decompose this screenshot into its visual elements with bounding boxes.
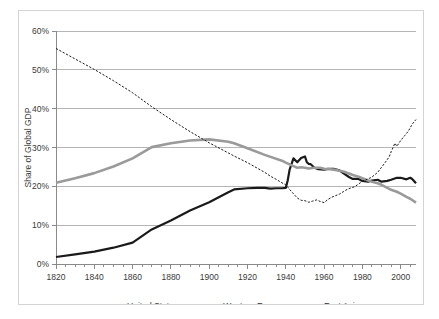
data-series bbox=[56, 48, 416, 257]
x-axis-tick-label: 1880 bbox=[161, 272, 180, 282]
x-axis-tick-label: 1900 bbox=[200, 272, 219, 282]
legend-label-east-asia: East Asia bbox=[324, 301, 360, 304]
legend-label-western-europe: Western Europe bbox=[223, 301, 285, 304]
y-axis bbox=[52, 31, 56, 264]
y-axis-tick-labels: 0%10%20%30%40%50%60% bbox=[32, 26, 49, 269]
x-axis bbox=[56, 264, 416, 269]
y-axis-tick-label: 40% bbox=[32, 104, 49, 114]
chart-plot-svg: 0%10%20%30%40%50%60% 1820184018601880190… bbox=[19, 11, 423, 304]
x-axis-tick-label: 1940 bbox=[276, 272, 295, 282]
legend-label-united-states: United States bbox=[127, 301, 178, 304]
chart-container: 0%10%20%30%40%50%60% 1820184018601880190… bbox=[18, 10, 424, 305]
x-axis-tick-label: 1840 bbox=[85, 272, 104, 282]
x-axis-tick-labels: 1820184018601880190019201940196019802000 bbox=[47, 272, 411, 282]
chart-legend: United StatesWestern EuropeEast Asia bbox=[105, 301, 360, 304]
x-axis-tick-label: 1960 bbox=[315, 272, 334, 282]
y-axis-tick-label: 20% bbox=[32, 181, 49, 191]
y-axis-tick-label: 30% bbox=[32, 143, 49, 153]
y-axis-title: Share of Global GDP bbox=[23, 107, 33, 187]
y-axis-tick-label: 10% bbox=[32, 220, 49, 230]
x-axis-tick-label: 1820 bbox=[47, 272, 66, 282]
series-line-united-states bbox=[56, 156, 416, 257]
y-axis-tick-label: 0% bbox=[37, 259, 50, 269]
gridlines bbox=[56, 31, 416, 264]
y-axis-title-text: Share of Global GDP bbox=[23, 107, 33, 187]
x-axis-tick-label: 1980 bbox=[353, 272, 372, 282]
series-line-western-europe bbox=[56, 139, 416, 202]
y-axis-tick-label: 50% bbox=[32, 65, 49, 75]
x-axis-tick-label: 1920 bbox=[238, 272, 257, 282]
x-axis-tick-label: 2000 bbox=[391, 272, 410, 282]
x-axis-tick-label: 1860 bbox=[123, 272, 142, 282]
y-axis-tick-label: 60% bbox=[32, 26, 49, 36]
